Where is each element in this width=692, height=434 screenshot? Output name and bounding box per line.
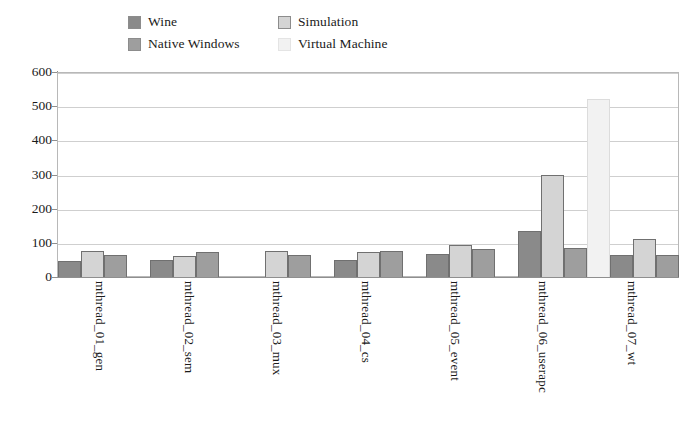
bar <box>564 248 587 277</box>
bar <box>58 261 81 277</box>
bar <box>518 231 541 277</box>
bar-group <box>610 72 692 277</box>
x-label-cell: mthread_06_userapc <box>501 281 590 401</box>
y-axis-tick-label: 0 <box>0 269 52 285</box>
legend-entry-simulation: Simulation <box>278 15 458 29</box>
chart-legend: Wine Simulation Native Windows Virtual M… <box>128 11 458 55</box>
legend-label-simulation: Simulation <box>298 15 358 29</box>
x-axis-category-label: mthread_04_cs <box>358 281 374 363</box>
bar <box>472 249 495 277</box>
legend-label-wine: Wine <box>148 15 177 29</box>
bar-group <box>242 72 334 277</box>
y-axis-tick-labels: 6005004003002001000 <box>0 72 52 277</box>
bar-group <box>426 72 518 277</box>
y-axis-tick-mark <box>52 140 57 141</box>
bar-group <box>518 72 610 277</box>
legend-entry-wine: Wine <box>128 15 278 29</box>
x-label-cell: mthread_05_event <box>412 281 501 401</box>
y-axis-tick-label: 500 <box>0 98 52 114</box>
bar-group <box>58 72 150 277</box>
bar-groups-layer <box>58 72 678 277</box>
bar <box>633 239 656 277</box>
bar <box>426 254 449 277</box>
legend-label-native-windows: Native Windows <box>148 37 240 51</box>
y-axis-tick-label: 100 <box>0 235 52 251</box>
bar-group <box>334 72 426 277</box>
y-axis-tick-mark <box>52 243 57 244</box>
bar <box>334 260 357 277</box>
x-axis-category-label: mthread_01_gen <box>92 281 108 371</box>
bar <box>610 255 633 277</box>
y-axis-tick-mark <box>52 209 57 210</box>
y-axis-tick-label: 400 <box>0 132 52 148</box>
y-axis-tick-mark <box>52 175 57 176</box>
legend-swatch-wine-icon <box>128 16 141 29</box>
x-label-cell: mthread_02_sem <box>147 281 236 401</box>
y-axis-tick-mark <box>52 106 57 107</box>
legend-swatch-virtual-machine-icon <box>278 38 291 51</box>
legend-entry-native-windows: Native Windows <box>128 37 278 51</box>
bar <box>449 245 472 277</box>
bar-group <box>150 72 242 277</box>
x-axis-category-label: mthread_05_event <box>447 281 463 381</box>
legend-label-virtual-machine: Virtual Machine <box>298 37 388 51</box>
bar <box>380 251 403 277</box>
bar <box>265 251 288 277</box>
x-axis-line <box>57 277 679 278</box>
bar <box>173 256 196 277</box>
x-axis-category-label: mthread_06_userapc <box>535 281 551 393</box>
x-axis-category-labels: mthread_01_genmthread_02_semmthread_03_m… <box>58 281 678 401</box>
bar <box>150 260 173 277</box>
bar <box>357 252 380 277</box>
legend-swatch-simulation-icon <box>278 16 291 29</box>
y-axis-tick-label: 200 <box>0 201 52 217</box>
x-axis-category-label: mthread_02_sem <box>181 281 197 373</box>
bar <box>541 175 564 278</box>
y-axis-tick-label: 300 <box>0 167 52 183</box>
y-axis-tick-label: 600 <box>0 64 52 80</box>
x-label-cell: mthread_03_mux <box>235 281 324 401</box>
bar <box>81 251 104 277</box>
x-label-cell: mthread_04_cs <box>324 281 413 401</box>
x-axis-category-label: mthread_07_wt <box>624 281 640 365</box>
y-axis-tick-mark <box>52 72 57 73</box>
x-label-cell: mthread_07_wt <box>589 281 678 401</box>
legend-entry-virtual-machine: Virtual Machine <box>278 37 458 51</box>
y-axis-tick-mark <box>52 277 57 278</box>
bar <box>196 252 219 277</box>
bar <box>656 255 679 277</box>
bar <box>288 255 311 277</box>
bar <box>104 255 127 277</box>
bar <box>587 99 610 277</box>
x-label-cell: mthread_01_gen <box>58 281 147 401</box>
x-axis-category-label: mthread_03_mux <box>269 281 285 376</box>
legend-swatch-native-windows-icon <box>128 38 141 51</box>
